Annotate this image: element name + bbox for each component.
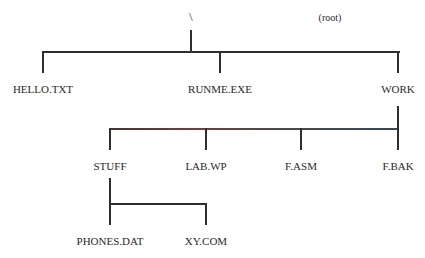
root-caption: (root) — [319, 12, 342, 24]
fbak-connector — [397, 128, 399, 150]
work-connector — [397, 51, 399, 73]
node-runme-exe: RUNME.EXE — [188, 83, 252, 95]
level1-branch-line — [43, 51, 400, 53]
stuff-down-connector — [109, 178, 111, 225]
node-f-bak: F.BAK — [382, 160, 413, 172]
level3-branch-line — [110, 203, 207, 205]
runme-connector — [219, 51, 221, 73]
node-stuff: STUFF — [93, 160, 126, 172]
node-lab-wp: LAB.WP — [185, 160, 226, 172]
node-phones-dat: PHONES.DAT — [77, 235, 144, 247]
node-hello-txt: HELLO.TXT — [13, 83, 73, 95]
fasm-connector — [300, 128, 302, 150]
node-xy-com: XY.COM — [185, 235, 227, 247]
xycom-connector — [205, 203, 207, 225]
labwp-connector — [205, 128, 207, 150]
root-symbol: \ — [189, 10, 192, 25]
level2-branch-line — [110, 128, 399, 130]
node-f-asm: F.ASM — [285, 160, 317, 172]
hello-connector — [42, 51, 44, 73]
node-work: WORK — [381, 83, 415, 95]
work-down-connector — [397, 106, 399, 129]
root-connector — [190, 30, 192, 52]
stuff-connector — [109, 128, 111, 150]
